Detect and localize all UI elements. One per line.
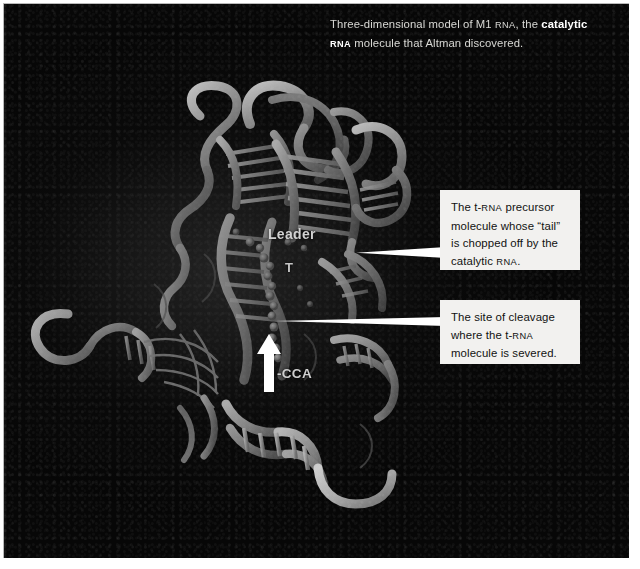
callout1-line4-part1: catalytic xyxy=(451,255,496,267)
callout1-line3: is chopped off by the xyxy=(451,237,558,249)
callout2-line1: The site of cleavage xyxy=(451,311,555,323)
molecule-label-t-loop: T xyxy=(285,260,293,275)
plate-grain xyxy=(4,4,629,558)
photo-plate: Leader T -CCA Three-dimensional model of… xyxy=(4,4,629,558)
plate-vignette xyxy=(4,4,629,558)
callout1-line1-part1: The t- xyxy=(451,201,481,213)
caption-emphasis-catalytic: catalytic xyxy=(541,18,587,30)
figure-caption: Three-dimensional model of M1 RNA, the c… xyxy=(330,15,620,53)
molecule-label-cca-end: -CCA xyxy=(277,366,312,381)
callout2-line3: molecule is severed. xyxy=(451,347,557,359)
m1-rna-ribbon-model xyxy=(4,4,629,558)
caption-line2-text: molecule that Altman discovered. xyxy=(351,37,523,49)
molecule-label-leader: Leader xyxy=(268,226,316,242)
callout1-line4-smallcaps: RNA xyxy=(496,257,517,267)
callout1-line2: molecule whose “tail” xyxy=(451,220,560,232)
callout1-line4-part2: . xyxy=(517,255,520,267)
caption-line1-smallcaps: RNA xyxy=(495,20,516,30)
callout-leader-line-1 xyxy=(356,247,446,258)
callout2-line2-smallcaps: RNA xyxy=(512,331,533,341)
rna-figure: Leader T -CCA Three-dimensional model of… xyxy=(0,0,640,569)
callout-trna-precursor: The t-RNA precursor molecule whose “tail… xyxy=(440,190,580,270)
caption-line1-part1: Three-dimensional model of M1 xyxy=(330,18,495,30)
callout-leader-line-2 xyxy=(274,317,446,326)
callout1-line1-smallcaps: RNA xyxy=(481,203,502,213)
callout-cleavage-site: The site of cleavage where the t-RNA mol… xyxy=(440,300,580,364)
cleavage-arrow xyxy=(256,334,282,392)
caption-line1-part2: , the xyxy=(516,18,542,30)
caption-line2-smallcaps: RNA xyxy=(330,39,351,49)
callout2-line2-part1: where the t- xyxy=(451,329,512,341)
callout1-line1-part2: precursor xyxy=(502,201,554,213)
